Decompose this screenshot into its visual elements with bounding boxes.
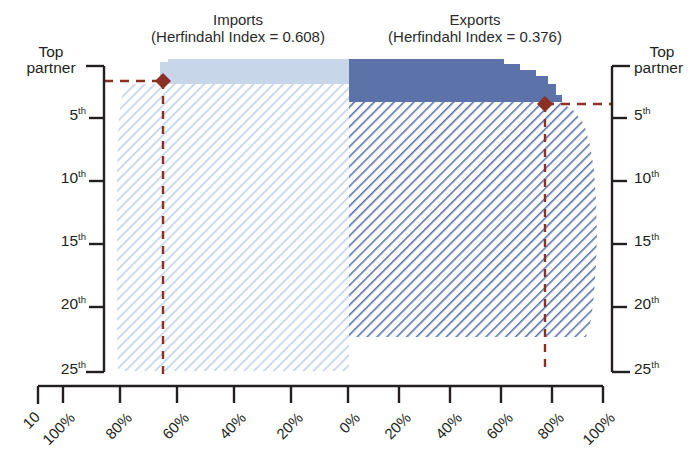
right-ylabel-5-suffix: th: [643, 105, 651, 116]
imports-hatch-region: [117, 84, 349, 371]
imports-top-band-step: [168, 59, 349, 72]
exports-top-staircase: [349, 59, 562, 102]
right-ylabel-25: 25th: [634, 360, 659, 377]
right-ylabel-20-num: 20: [634, 295, 651, 312]
right-ylabel-5-num: 5: [634, 106, 643, 123]
left-ylabel-5-num: 5: [69, 106, 78, 123]
right-ylabel-10: 10th: [634, 169, 659, 186]
left-y-axis: [86, 66, 104, 372]
right-ylabel-20-suffix: th: [651, 294, 659, 305]
left-ylabel-25-suffix: th: [78, 359, 86, 370]
left-ylabel-20-suffix: th: [78, 294, 86, 305]
left-ylabel-10-suffix: th: [78, 168, 86, 179]
left-ylabel-5-suffix: th: [78, 105, 86, 116]
left-ylabel-25: 25th: [33, 360, 86, 377]
right-ylabel-15-num: 15: [634, 232, 651, 249]
right-ylabel-top-partner: Top partner: [634, 44, 698, 77]
right-ylabel-10-suffix: th: [651, 168, 659, 179]
left-ylabel-20-num: 20: [61, 295, 78, 312]
right-ylabel-25-suffix: th: [651, 359, 659, 370]
left-ylabel-20: 20th: [33, 295, 86, 312]
left-ylabel-top-line1: Top: [16, 44, 86, 60]
left-ylabel-5: 5th: [43, 106, 86, 123]
right-ylabel-20: 20th: [634, 295, 659, 312]
left-ylabel-25-num: 25: [61, 360, 78, 377]
right-ylabel-15: 15th: [634, 232, 659, 249]
right-ylabel-10-num: 10: [634, 169, 651, 186]
left-ylabel-top-partner: Top partner: [16, 44, 86, 77]
imports-area: [117, 59, 349, 371]
right-ylabel-25-num: 25: [634, 360, 651, 377]
left-ylabel-top-line2: partner: [16, 60, 86, 76]
right-ylabel-5: 5th: [634, 106, 651, 123]
left-ylabel-10-num: 10: [61, 169, 78, 186]
exports-area: [349, 59, 597, 337]
right-ylabel-top-line1: Top: [634, 44, 690, 60]
left-ylabel-10: 10th: [33, 169, 86, 186]
left-ylabel-15-num: 15: [61, 232, 78, 249]
right-ylabel-top-line2: partner: [634, 60, 698, 76]
right-y-axis: [612, 66, 630, 372]
exports-hatch-region: [349, 101, 597, 337]
right-ylabel-15-suffix: th: [651, 231, 659, 242]
left-ylabel-15: 15th: [33, 232, 86, 249]
left-ylabel-15-suffix: th: [78, 231, 86, 242]
x-axis: [38, 386, 603, 404]
